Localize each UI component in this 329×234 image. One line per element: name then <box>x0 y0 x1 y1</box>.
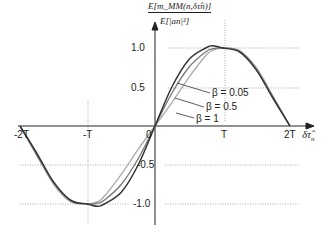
legend-beta-1: β = 1 <box>196 114 219 124</box>
xaxis-label: δτ̂n <box>302 129 315 143</box>
xaxis-label-text: δτ̂ <box>302 128 311 140</box>
xaxis-label-sub: n <box>311 135 315 143</box>
ylabel-denominator: E[|an|²] <box>160 17 189 26</box>
ytick-neg-0-5: -0.5 <box>137 160 154 170</box>
xtick-neg-T: -T <box>83 130 92 140</box>
xtick-2T: 2T <box>284 130 296 140</box>
ylabel-numerator: E[m_MM(n,δτ̂n)] <box>148 2 211 13</box>
ytick-1: 1.0 <box>131 43 145 53</box>
ytick-neg-1: -1.0 <box>133 199 150 209</box>
xtick-neg-2T: -2T <box>14 130 29 140</box>
xtick-T: T <box>221 130 227 140</box>
chart-container: E[m_MM(n,δτ̂n)] E[|an|²] 1.0 0.5 -0.5 -1… <box>0 0 329 234</box>
ytick-0-5: 0.5 <box>131 83 145 93</box>
plot-svg <box>0 0 329 234</box>
legend-beta-0-5: β = 0.5 <box>206 102 237 112</box>
xtick-0: 0 <box>146 130 152 140</box>
legend-beta-0-05: β = 0.05 <box>212 88 249 98</box>
